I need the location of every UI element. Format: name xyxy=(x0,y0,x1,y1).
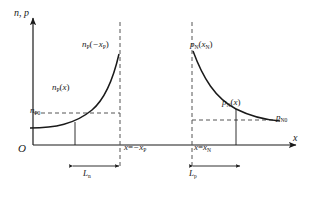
label-pn-of-x: pN(x) xyxy=(222,98,241,108)
x-axis-label: x xyxy=(293,133,297,143)
label-pn0: pN0 xyxy=(276,113,287,123)
y-axis-label: n, p xyxy=(14,8,29,18)
label-np-at-minus-xp: nP(−xP) xyxy=(82,40,109,50)
label-np0: nP0 xyxy=(30,106,40,116)
curve-np-of-x xyxy=(30,54,119,128)
carrier-concentration-diagram: n, p O x nP(−xP) nP(x) pN(xN) pN(x) nP0 … xyxy=(0,0,309,204)
origin-label: O xyxy=(18,143,26,154)
label-x-eq-minus-xp: x=−xP xyxy=(124,143,146,153)
diagram-canvas xyxy=(0,0,309,204)
label-np-of-x: nP(x) xyxy=(52,83,70,93)
label-x-eq-xn: x=xN xyxy=(194,143,211,153)
label-diffusion-length-lp: Lp xyxy=(189,169,197,179)
curve-pn-of-x xyxy=(193,51,280,121)
label-pn-at-xn: pN(xN) xyxy=(190,40,213,50)
label-diffusion-length-ln: Ln xyxy=(83,169,91,179)
